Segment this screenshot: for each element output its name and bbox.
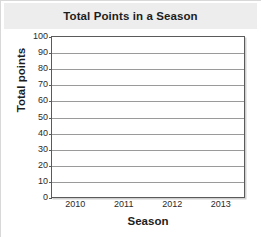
- y-axis-tick-label: 100: [33, 32, 48, 41]
- y-axis-tick-label: 10: [38, 176, 48, 185]
- x-axis-title: Season: [51, 215, 245, 227]
- y-axis-tick-mark: [49, 198, 52, 199]
- x-axis-tick-label: 2010: [65, 200, 85, 209]
- y-axis-tick-label: 40: [38, 128, 48, 137]
- y-axis-tick-label: 70: [38, 80, 48, 89]
- gridline: [52, 150, 244, 151]
- gridline: [52, 101, 244, 102]
- gridline: [52, 134, 244, 135]
- y-axis-tick-label: 50: [38, 112, 48, 121]
- y-axis-tick-mark: [49, 85, 52, 86]
- y-axis-tick-mark: [49, 118, 52, 119]
- y-axis-tick-label: 20: [38, 160, 48, 169]
- y-axis-tick-mark: [49, 69, 52, 70]
- y-axis-tick-mark: [49, 101, 52, 102]
- gridline: [52, 118, 244, 119]
- gridline: [52, 85, 244, 86]
- y-axis-tick-mark: [49, 182, 52, 183]
- y-axis-tick-mark: [49, 53, 52, 54]
- y-axis-tick-mark: [49, 37, 52, 38]
- chart-title-band: Total Points in a Season: [4, 3, 257, 29]
- x-axis-tick-label: 2013: [211, 200, 231, 209]
- x-axis-tick-label: 2011: [114, 200, 133, 209]
- y-axis-tick-mark: [49, 150, 52, 151]
- gridline: [52, 69, 244, 70]
- y-axis-tick-labels: 1009080706050403020100: [22, 36, 48, 198]
- y-axis-tick-label: 90: [38, 48, 48, 57]
- y-axis-tick-label: 0: [43, 193, 48, 202]
- plot-area: [51, 36, 245, 198]
- gridline: [52, 53, 244, 54]
- y-axis-tick-label: 30: [38, 144, 48, 153]
- y-axis-tick-mark: [49, 134, 52, 135]
- y-axis-tick-mark: [49, 166, 52, 167]
- y-axis-tick-label: 60: [38, 96, 48, 105]
- y-axis-tick-label: 80: [38, 64, 48, 73]
- gridline: [52, 166, 244, 167]
- gridline: [52, 182, 244, 183]
- x-axis-tick-label: 2012: [162, 200, 182, 209]
- chart-title: Total Points in a Season: [63, 10, 197, 22]
- x-axis-tick-labels: 2010201120122013: [51, 200, 245, 214]
- chart-container: Total Points in a Season Total points 10…: [0, 0, 261, 237]
